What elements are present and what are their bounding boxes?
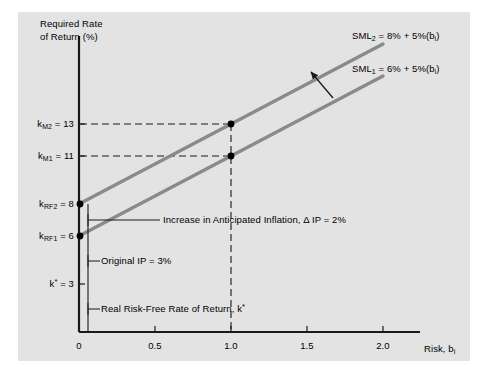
ytick-label-krf1: kRF1 = 6 — [12, 230, 74, 243]
x-axis-title: Risk, bi — [424, 343, 455, 356]
y-axis-title: Required Rate of Return (%) — [40, 17, 103, 43]
ytick-label-kstar: k* = 3 — [12, 278, 74, 291]
xtick-label-0: 0 — [59, 340, 99, 352]
ytick-label-krf2: kRF2 = 8 — [12, 198, 74, 211]
point-krf2 — [77, 201, 84, 208]
sml2-leader — [338, 36, 352, 44]
sml1-label: SML1 = 6% + 5%(bi) — [352, 63, 440, 76]
ytick-label-km2: kM2 = 13 — [12, 118, 74, 131]
point-krf1 — [77, 233, 84, 240]
point-km1 — [228, 153, 235, 160]
sml-inflation-chart-figure: Required Rate of Return (%) Risk, bi SML… — [0, 0, 481, 377]
chart-vector-layer — [0, 0, 481, 377]
annotation-original-ip: Original IP = 3% — [101, 255, 171, 267]
point-km2 — [228, 121, 235, 128]
annotation-real-risk-free: Real Risk-Free Rate of Return, k* — [101, 303, 245, 316]
xtick-label-2-0: 2.0 — [363, 340, 403, 352]
annotation-inflation: Increase in Anticipated Inflation, Δ IP … — [163, 214, 346, 226]
y-axis-title-line1: Required Rate — [40, 18, 103, 29]
xtick-label-0-5: 0.5 — [135, 340, 175, 352]
ytick-label-km1: kM1 = 11 — [12, 150, 74, 163]
xtick-label-1-0: 1.0 — [211, 340, 251, 352]
y-axis-title-line2: of Return (%) — [40, 31, 98, 42]
xtick-label-1-5: 1.5 — [287, 340, 327, 352]
sml2-label: SML2 = 8% + 5%(bi) — [352, 30, 440, 43]
